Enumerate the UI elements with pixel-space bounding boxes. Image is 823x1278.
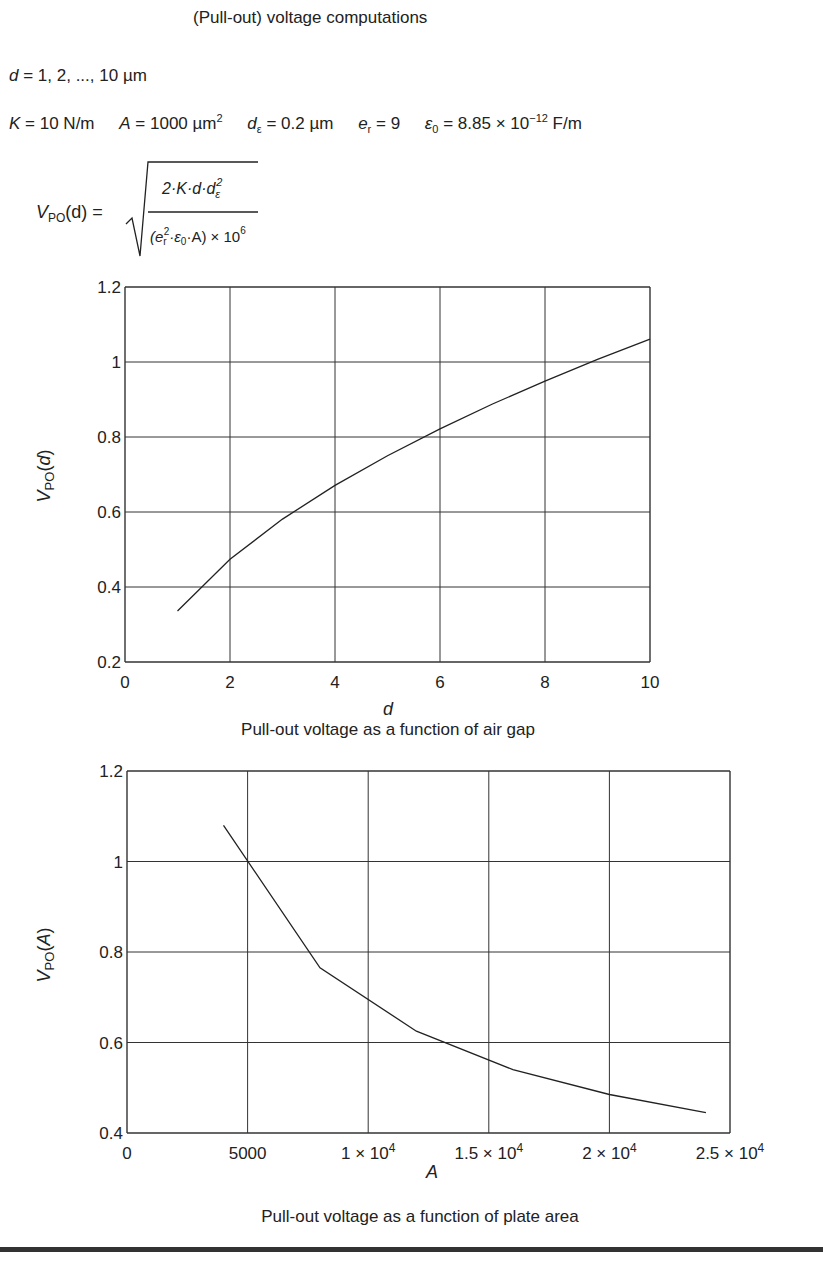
constant-a: A = 1000 µm2 [119,114,222,133]
chart2-y-tick-label: 0.4 [99,1124,123,1143]
formula-numerator: 2·K·d·dε2 [161,176,222,200]
chart1-x-tick-label: 8 [540,673,549,692]
chart-voltage-vs-gap: 02468100.20.40.60.811.2 VPO(d) d [0,270,823,740]
chart1-y-tick-label: 0.6 [97,503,121,522]
chart2-x-tick-label: 1 × 104 [341,1141,396,1163]
chart-voltage-vs-area: 050001 × 1041.5 × 1042 × 1042.5 × 1040.4… [0,755,823,1200]
chart2-caption: Pull-out voltage as a function of plate … [0,1207,823,1227]
chart2-axis-ticks: 050001 × 1041.5 × 1042 × 1042.5 × 1040.4… [99,762,764,1163]
chart2-y-tick-label: 0.6 [99,1034,123,1053]
chart2-x-tick-label: 1.5 × 104 [454,1141,523,1163]
chart2-x-tick-label: 2.5 × 104 [696,1141,765,1163]
formula-lhs: VPO(d) = [36,202,103,225]
chart1-x-tick-label: 0 [120,673,129,692]
range-text: = 1, 2, ..., 10 µm [18,66,146,85]
chart1-y-tick-label: 0.2 [97,653,121,672]
chart1-x-tick-label: 6 [435,673,444,692]
chart1-y-tick-label: 0.4 [97,578,121,597]
constant-er: er = 9 [358,114,400,133]
chart1-gridlines [125,287,650,662]
chart2-y-tick-label: 1 [114,853,123,872]
chart2-x-tick-label: 0 [122,1144,131,1163]
chart1-y-axis-label: VPO(d) [34,450,57,503]
chart2-y-tick-label: 1.2 [99,762,123,781]
chart1-series-line [178,339,651,611]
chart1-x-tick-label: 2 [225,673,234,692]
range-definition: d = 1, 2, ..., 10 µm [9,66,147,86]
chart2-gridlines [127,771,730,1133]
chart1-axis-ticks: 02468100.20.40.60.811.2 [97,278,659,692]
chart1-x-axis-label: d [383,699,394,719]
chart2-series-line [224,825,706,1112]
constants-line: K = 10 N/m A = 1000 µm2 dε = 0.2 µm er =… [9,112,602,135]
chart1-y-tick-label: 0.8 [97,428,121,447]
chart2-x-tick-label: 5000 [229,1144,267,1163]
chart1-y-tick-label: 1 [112,353,121,372]
section-divider [0,1247,823,1252]
chart2-x-axis-label: A [425,1162,438,1182]
formula-denominator: (er2·ε0·A) × 106 [150,225,246,247]
chart1-y-tick-label: 1.2 [97,278,121,297]
chart2-y-axis-label: VPO(A) [34,928,57,983]
constant-eps0: ε0 = 8.85 × 10−12 F/m [425,114,582,133]
constant-d-eps: dε = 0.2 µm [247,114,333,133]
chart1-caption: Pull-out voltage as a function of air ga… [0,720,776,740]
chart2-x-tick-label: 2 × 104 [582,1141,637,1163]
pull-out-formula: VPO(d) = 2·K·d·dε2 (er2·ε0·A) × 106 [36,160,296,250]
formula-graphic: VPO(d) = 2·K·d·dε2 (er2·ε0·A) × 106 [36,160,296,260]
title-text: (Pull-out) voltage computations [193,8,427,28]
chart1-x-tick-label: 10 [641,673,660,692]
chart2-y-tick-label: 0.8 [99,943,123,962]
chart1-x-tick-label: 4 [330,673,339,692]
constant-k: K = 10 N/m [9,114,95,133]
